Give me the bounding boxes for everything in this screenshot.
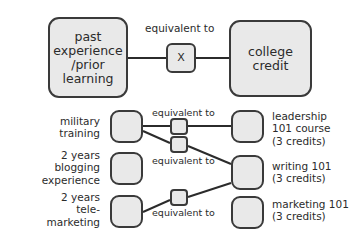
connector-row3[interactable] <box>170 189 188 206</box>
caption-top-equivalent-to: equivalent to <box>145 22 214 35</box>
wire-connector3-to-writing <box>188 183 231 197</box>
connector-row2[interactable] <box>170 136 188 153</box>
equivalency-diagram: past experience /prior learning equivale… <box>0 0 363 236</box>
node-blogging-experience-box[interactable] <box>110 152 143 185</box>
node-telemarketing-box[interactable] <box>110 195 143 228</box>
node-x-connector[interactable]: X <box>166 43 196 73</box>
node-writing-101-box[interactable] <box>231 155 264 190</box>
wire-military-to-connector2 <box>143 131 170 143</box>
node-military-training-box[interactable] <box>110 110 143 143</box>
caption-row1-equivalent-to: equivalent to <box>152 107 215 118</box>
node-leadership-101-box[interactable] <box>231 110 264 143</box>
label-blogging-experience: 2 years blogging experience <box>22 149 100 186</box>
label-military-training: military training <box>28 115 100 140</box>
label-writing-101: writing 101 (3 credits) <box>272 160 362 185</box>
node-x-connector-label: X <box>177 52 185 64</box>
label-leadership-101: leadership 101 course (3 credits) <box>272 110 362 147</box>
node-college-credit-label: college credit <box>248 45 293 73</box>
label-telemarketing: 2 years tele- marketing <box>22 191 100 228</box>
node-college-credit[interactable]: college credit <box>229 20 312 97</box>
caption-row3-equivalent-to: equivalent to <box>152 207 215 218</box>
label-marketing-101: marketing 101 (3 credits) <box>272 198 362 223</box>
node-marketing-101-box[interactable] <box>231 196 264 229</box>
connector-row1[interactable] <box>170 118 188 135</box>
node-past-experience[interactable]: past experience /prior learning <box>48 17 128 98</box>
node-past-experience-label: past experience /prior learning <box>53 30 122 86</box>
caption-row2-equivalent-to: equivalent to <box>152 155 215 166</box>
